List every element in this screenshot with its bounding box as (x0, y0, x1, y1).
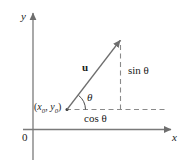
origin-label: 0 (22, 132, 28, 143)
x-axis-label: x (172, 132, 177, 143)
vector-diagram-figure: y x 0 (x0, y0) u θ cos θ sin θ (0, 0, 186, 167)
paren-close: ) (58, 101, 61, 112)
base-point-coordinate-label: (x0, y0) (34, 102, 61, 115)
angle-arc (79, 95, 86, 109)
angle-theta-label: θ (87, 92, 92, 103)
cos-theta-label: cos θ (84, 113, 107, 124)
sin-theta-label: sin θ (128, 65, 149, 76)
vector-u-label: u (82, 62, 88, 73)
vector-u-arrow (67, 41, 120, 110)
y-axis-label: y (21, 11, 26, 22)
